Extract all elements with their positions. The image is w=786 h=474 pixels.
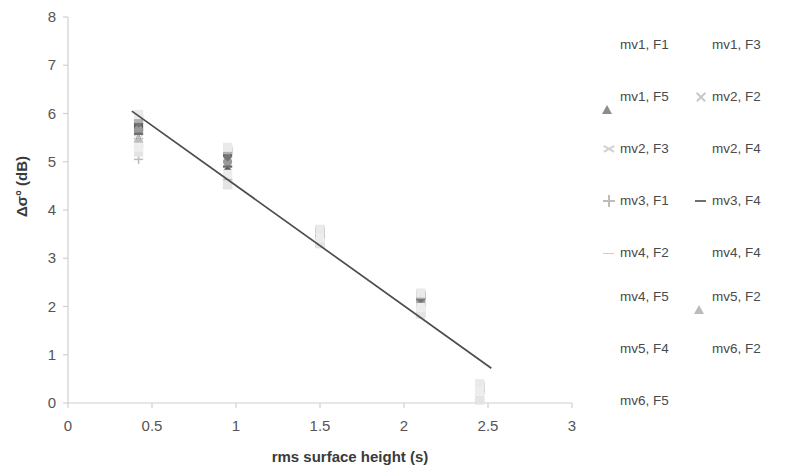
legend-label: mv5, F2: [712, 290, 761, 304]
series-mv2-f3: [134, 133, 484, 401]
plus-shape: [602, 194, 616, 208]
series-mv1-f3: [134, 122, 484, 392]
triangle-marker-icon: [602, 90, 616, 104]
legend-item-mv3-f1[interactable]: mv3, F1: [602, 192, 669, 210]
legend-label: mv6, F5: [620, 394, 669, 408]
legend-label: mv1, F1: [620, 38, 669, 52]
legend-label: mv6, F2: [712, 342, 761, 356]
legend-label: mv3, F1: [620, 194, 669, 208]
data-points: [134, 110, 484, 405]
legend-item-mv3-f4[interactable]: mv3, F4: [694, 192, 761, 210]
series-mv4-f4: [134, 119, 484, 394]
series-mv1-f5: [134, 133, 484, 401]
series-mv6-f2: [134, 148, 484, 405]
legend-label: mv4, F2: [620, 246, 669, 260]
plus-marker-icon: [602, 194, 616, 208]
square-marker-icon: [602, 290, 616, 304]
legend-item-mv2-f3[interactable]: mv2, F3: [602, 140, 669, 158]
legend-label: mv2, F3: [620, 142, 669, 156]
dash-shape: [694, 194, 708, 208]
legend-item-mv6-f2[interactable]: mv6, F2: [694, 340, 761, 358]
legend-label: mv2, F4: [712, 142, 761, 156]
series-mv4-f2: [134, 144, 484, 398]
legend-label: mv2, F2: [712, 90, 761, 104]
blank-marker-icon: [602, 342, 616, 356]
cross-marker-icon: [694, 90, 708, 104]
legend-item-mv1-f5[interactable]: mv1, F5: [602, 88, 669, 106]
legend-item-mv4-f4[interactable]: mv4, F4: [694, 244, 761, 262]
line-shape: [602, 246, 616, 260]
series-mv5-f2: [134, 135, 484, 398]
blank-marker-icon: [694, 342, 708, 356]
legend-item-mv5-f2[interactable]: mv5, F2: [694, 288, 761, 306]
series-mv6-f5: [134, 143, 484, 396]
axes: [63, 17, 572, 408]
dash-marker-icon: [694, 194, 708, 208]
legend-label: mv1, F3: [712, 38, 761, 52]
line-marker-icon: [602, 246, 616, 260]
series-mv1-f1: [134, 127, 484, 398]
square-marker-icon: [694, 38, 708, 52]
star-shape: [602, 142, 616, 156]
legend-item-mv4-f5[interactable]: mv4, F5: [602, 288, 669, 306]
triangle-shape: [694, 290, 704, 314]
series-mv3-f4: [134, 133, 484, 394]
series-mv4-f5: [134, 114, 484, 391]
legend-item-mv5-f4[interactable]: mv5, F4: [602, 340, 669, 358]
blank-marker-icon: [602, 394, 616, 408]
legend-label: mv5, F4: [620, 342, 669, 356]
legend-item-mv2-f2[interactable]: mv2, F2: [694, 88, 761, 106]
legend-item-mv1-f1[interactable]: mv1, F1: [602, 36, 669, 54]
legend-item-mv2-f4[interactable]: mv2, F4: [694, 140, 761, 158]
legend-item-mv6-f5[interactable]: mv6, F5: [602, 392, 669, 410]
cross-shape: [694, 90, 708, 104]
legend: mv1, F1mv1, F3mv1, F5mv2, F2mv2, F3mv2, …: [598, 36, 786, 426]
series-mv3-f1: [134, 155, 484, 404]
legend-label: mv3, F4: [712, 194, 761, 208]
triangle-shape: [602, 90, 612, 114]
legend-item-mv1-f3[interactable]: mv1, F3: [694, 36, 761, 54]
triangle-marker-icon: [694, 290, 708, 304]
series-mv5-f4: [134, 110, 484, 388]
legend-label: mv1, F5: [620, 90, 669, 104]
series-mv2-f2: [134, 138, 484, 403]
trend-line: [132, 111, 492, 368]
circle-marker-icon: [694, 142, 708, 156]
diamond-marker-icon: [694, 246, 708, 260]
legend-item-mv4-f2[interactable]: mv4, F2: [602, 244, 669, 262]
scatter-chart: Δσ° (dB) rms surface height (s) 01234567…: [0, 0, 786, 474]
star-marker-icon: [602, 142, 616, 156]
diamond-marker-icon: [602, 38, 616, 52]
legend-label: mv4, F5: [620, 290, 669, 304]
legend-label: mv4, F4: [712, 246, 761, 260]
series-mv2-f4: [134, 125, 484, 395]
